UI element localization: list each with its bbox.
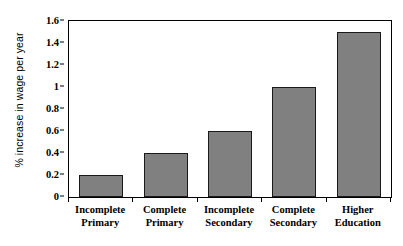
x-axis-category-label-1: CompletePrimary [132, 203, 196, 229]
x-axis-tick-mark [132, 197, 133, 202]
x-axis-ticks [68, 197, 392, 202]
category-label-line2: Secondary [261, 216, 325, 229]
bar-3 [272, 87, 316, 197]
category-label-line2: Education [326, 216, 390, 229]
plot-area [68, 20, 392, 198]
y-axis-ticks: 00.20.40.60.811.21.41.6 [34, 20, 64, 196]
x-axis-labels: IncompletePrimaryCompletePrimaryIncomple… [68, 203, 390, 245]
y-axis-tick-label: 0.4 [46, 147, 59, 158]
y-axis-tick-mark [60, 20, 64, 21]
x-axis-tick-mark [261, 197, 262, 202]
bar-chart-figure: % increase in wage per year 00.20.40.60.… [0, 0, 403, 246]
category-label-line1: Complete [143, 204, 186, 215]
y-axis-tick-mark [60, 108, 64, 109]
y-axis-tick-mark [60, 130, 64, 131]
y-axis-tick-mark [60, 152, 64, 153]
bars-container [69, 21, 391, 197]
y-axis-tick-label: 1.2 [46, 59, 59, 70]
y-axis-tick-label: 0.8 [46, 103, 59, 114]
y-axis-tick-label: 0 [54, 191, 59, 202]
category-label-line1: Incomplete [75, 204, 125, 215]
bar-1 [144, 153, 188, 197]
y-axis-tick-mark [60, 196, 64, 197]
y-axis-tick-label: 1.4 [46, 37, 59, 48]
y-axis-title-container: % increase in wage per year [0, 0, 38, 200]
category-label-line1: Incomplete [204, 204, 254, 215]
bar-0 [79, 175, 123, 197]
x-axis-category-label-0: IncompletePrimary [68, 203, 132, 229]
y-axis-tick-label: 1.6 [46, 15, 59, 26]
y-axis-tick-label: 1 [54, 81, 59, 92]
category-label-line2: Primary [68, 216, 132, 229]
x-axis-category-label-2: IncompleteSecondary [197, 203, 261, 229]
x-axis-tick-mark [390, 197, 391, 202]
x-axis-tick-mark [326, 197, 327, 202]
category-label-line2: Primary [132, 216, 196, 229]
bar-4 [337, 32, 381, 197]
y-axis-tick-label: 0.6 [46, 125, 59, 136]
x-axis-tick-mark [68, 197, 69, 202]
x-axis-category-label-3: CompleteSecondary [261, 203, 325, 229]
y-axis-tick-mark [60, 42, 64, 43]
x-axis-category-label-4: HigherEducation [326, 203, 390, 229]
category-label-line2: Secondary [197, 216, 261, 229]
y-axis-tick-mark [60, 64, 64, 65]
y-axis-tick-label: 0.2 [46, 169, 59, 180]
y-axis-tick-mark [60, 174, 64, 175]
x-axis-tick-mark [197, 197, 198, 202]
category-label-line1: Higher [342, 204, 374, 215]
y-axis-tick-mark [60, 86, 64, 87]
bar-2 [208, 131, 252, 197]
category-label-line1: Complete [272, 204, 315, 215]
y-axis-title: % increase in wage per year [13, 32, 25, 167]
